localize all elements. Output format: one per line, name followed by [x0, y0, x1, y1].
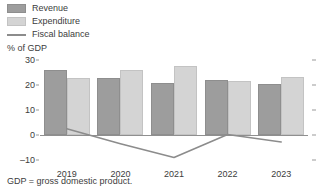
legend-item-expenditure: Expenditure	[7, 15, 157, 27]
legend-line-fiscal-balance	[7, 30, 26, 39]
y-tick-label: 10	[25, 106, 35, 115]
legend-label-revenue: Revenue	[32, 3, 68, 13]
plot-area: –10010203020192020202120222023	[40, 60, 308, 160]
y-tick-mark	[36, 60, 39, 61]
plot-inner: –10010203020192020202120222023	[40, 60, 308, 160]
y-tick-mark-right	[312, 135, 316, 136]
y-tick-mark-right	[312, 110, 316, 111]
bar-revenue	[97, 78, 120, 136]
bar-revenue	[44, 70, 67, 135]
y-axis-title: % of GDP	[7, 43, 47, 53]
y-tick-mark	[36, 135, 39, 136]
y-tick-mark	[36, 85, 39, 86]
bar-expenditure	[67, 78, 90, 136]
legend-label-expenditure: Expenditure	[32, 16, 80, 26]
bar-expenditure	[281, 77, 304, 135]
y-tick-label: –10	[20, 156, 35, 165]
y-tick-mark	[36, 160, 39, 161]
bar-expenditure	[228, 81, 251, 135]
y-tick-mark-right	[312, 85, 316, 86]
y-tick-label: 30	[25, 56, 35, 65]
y-tick-mark	[36, 110, 39, 111]
y-tick-label: 0	[30, 131, 35, 140]
y-tick-mark-right	[312, 160, 316, 161]
legend-swatch-expenditure	[7, 17, 26, 26]
legend-item-fiscal-balance: Fiscal balance	[7, 28, 157, 40]
y-tick-label: 20	[25, 81, 35, 90]
legend-item-revenue: Revenue	[7, 2, 157, 14]
bar-expenditure	[174, 66, 197, 135]
x-tick-label: 2021	[164, 169, 184, 179]
x-tick-label: 2022	[218, 169, 238, 179]
x-tick-label: 2023	[271, 169, 291, 179]
chart-legend: Revenue Expenditure Fiscal balance	[7, 2, 157, 41]
bar-revenue	[258, 84, 281, 135]
chart-footnote: GDP = gross domestic product.	[7, 176, 132, 186]
zero-baseline	[40, 135, 308, 136]
bar-revenue	[205, 80, 228, 135]
bar-revenue	[151, 83, 174, 136]
bar-expenditure	[120, 70, 143, 135]
y-tick-mark-right	[312, 60, 316, 61]
legend-swatch-revenue	[7, 4, 26, 13]
fiscal-indicators-chart: Revenue Expenditure Fiscal balance % of …	[0, 0, 322, 192]
legend-label-fiscal-balance: Fiscal balance	[32, 29, 90, 39]
